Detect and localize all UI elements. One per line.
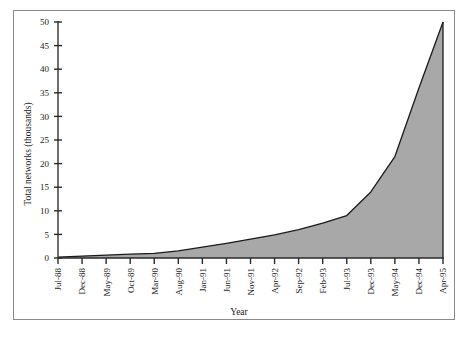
y-axis-tick-label: 40 xyxy=(40,64,50,74)
x-axis-tick-label: Oct-89 xyxy=(126,268,136,293)
y-axis-tick-label: 25 xyxy=(40,135,50,145)
x-axis-tick-label: Dec-88 xyxy=(77,268,87,295)
x-axis-tick-label: Jan-91 xyxy=(198,268,208,292)
area-chart: 05101520253035404550Jul-88Dec-88May-89Oc… xyxy=(0,0,471,338)
x-axis-tick-label: Nov-91 xyxy=(246,268,256,296)
y-axis-tick-label: 45 xyxy=(40,41,50,51)
x-axis-tick-label: Mar-90 xyxy=(150,268,160,295)
x-axis-tick-label: Dec-93 xyxy=(366,268,376,295)
x-axis-tick-label: Feb-93 xyxy=(318,268,328,294)
x-axis-tick-label: Apr-95 xyxy=(438,268,448,294)
x-axis-tick-label: Aug-90 xyxy=(174,268,184,296)
y-axis-tick-label: 5 xyxy=(45,230,50,240)
figure-container: 05101520253035404550Jul-88Dec-88May-89Oc… xyxy=(0,0,471,338)
x-axis-tick-label: May-94 xyxy=(390,268,400,297)
y-axis-title: Total networks (thousands) xyxy=(23,102,34,205)
y-axis-tick-label: 20 xyxy=(40,159,50,169)
x-axis-tick-label: Jul-93 xyxy=(342,268,352,291)
x-axis-tick-label: May-89 xyxy=(102,268,112,297)
y-axis-tick-label: 30 xyxy=(40,112,50,122)
y-axis-tick-label: 50 xyxy=(40,17,50,27)
y-axis-tick-label: 0 xyxy=(45,253,50,263)
y-axis-tick-label: 15 xyxy=(40,182,50,192)
y-axis-tick-label: 10 xyxy=(40,206,50,216)
x-axis-tick-label: Sep-92 xyxy=(294,268,304,294)
area-fill xyxy=(58,22,443,258)
y-axis-tick-label: 35 xyxy=(40,88,50,98)
x-axis-title: Year xyxy=(230,307,248,317)
x-axis-tick-label: Dec-94 xyxy=(414,268,424,295)
x-axis-tick-label: Jul-88 xyxy=(53,268,63,291)
x-axis-tick-label: Jun-91 xyxy=(222,268,232,293)
x-axis-tick-label: Apr-92 xyxy=(270,268,280,294)
